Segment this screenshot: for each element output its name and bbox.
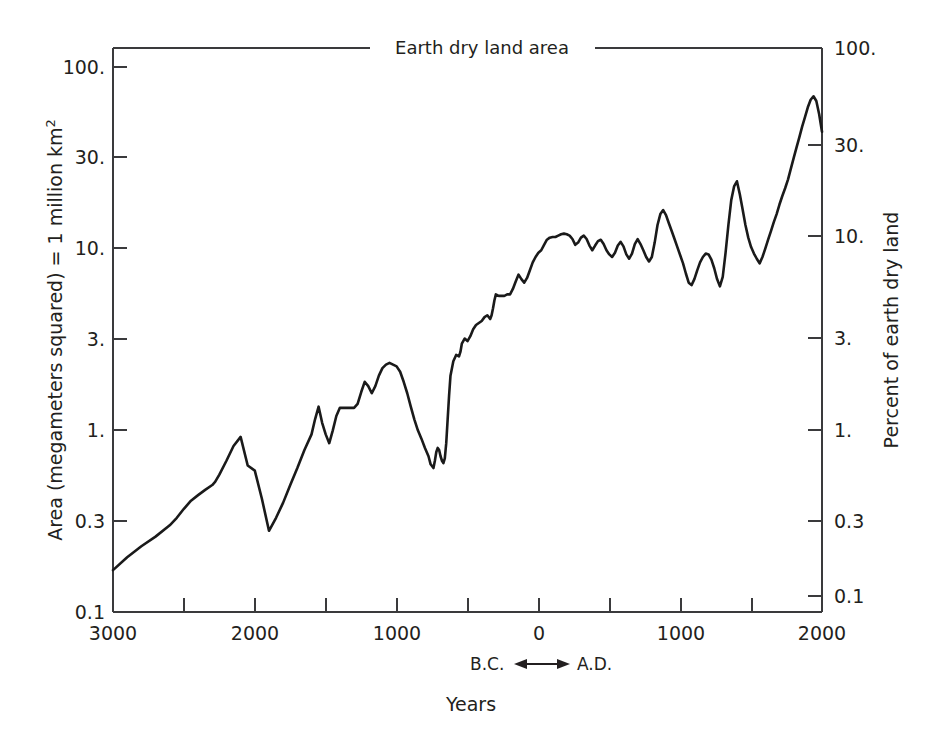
data-series-line (113, 96, 822, 570)
y-tick-label-10: 10. (75, 237, 105, 259)
y-axis-title: Area (megameters squared) = 1 million km… (43, 119, 67, 541)
y-axis-left-labels: 100. 30. 10. 3. 1. 0.3 0.1 (63, 56, 105, 623)
x-tick-label-1000bc: 1000 (373, 622, 421, 644)
y-axis-left-ticks (113, 67, 127, 612)
chart-figure: Earth dry land area 100. 30. 10. 3. 1. 0… (0, 0, 951, 748)
y2-tick-label-3: 3. (834, 327, 852, 349)
chart-title: Earth dry land area (395, 37, 569, 58)
y2-tick-label-1: 1. (834, 419, 852, 441)
earth-dry-land-area-chart: Earth dry land area 100. 30. 10. 3. 1. 0… (0, 0, 951, 748)
era-label-ad: A.D. (577, 654, 612, 674)
y-tick-label-0-3: 0.3 (75, 510, 105, 532)
x-tick-label-2000bc: 2000 (231, 622, 279, 644)
x-tick-label-0: 0 (533, 622, 545, 644)
x-axis-ticks (113, 598, 822, 612)
y-tick-label-1: 1. (87, 419, 105, 441)
x-tick-label-1000ad: 1000 (657, 622, 705, 644)
x-tick-label-2000ad: 2000 (798, 622, 846, 644)
era-arrow-left-head-icon (514, 659, 527, 669)
y-tick-label-100: 100. (63, 56, 105, 78)
y2-axis-title: Percent of earth dry land (880, 212, 902, 449)
era-annotation: B.C. A.D. (470, 654, 612, 674)
y-axis-right-labels: 100. 30. 10. 3. 1. 0.3 0.1 (834, 37, 876, 607)
y2-tick-label-100: 100. (834, 37, 876, 59)
y2-tick-label-0-3: 0.3 (834, 510, 864, 532)
x-tick-label-3000bc: 3000 (89, 622, 137, 644)
era-arrow-right-head-icon (557, 659, 570, 669)
y2-tick-label-0-1: 0.1 (834, 585, 864, 607)
x-axis-title: Years (445, 693, 496, 715)
x-axis-labels: 3000 2000 1000 0 1000 2000 (89, 622, 846, 644)
plot-frame (113, 48, 822, 612)
y-tick-label-3: 3. (87, 328, 105, 350)
y-axis-right-ticks (808, 48, 822, 596)
y2-tick-label-30: 30. (834, 134, 864, 156)
y-tick-label-30: 30. (75, 146, 105, 168)
y-tick-label-0-1: 0.1 (75, 601, 105, 623)
y2-tick-label-10: 10. (834, 225, 864, 247)
era-label-bc: B.C. (470, 654, 504, 674)
